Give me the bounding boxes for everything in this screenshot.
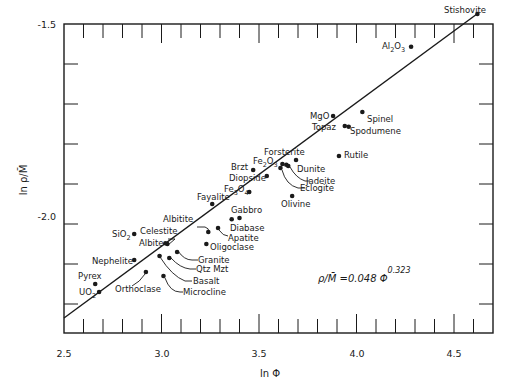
x-tick-label: 3.0 bbox=[154, 348, 169, 359]
label-olivine: Olivine bbox=[281, 199, 310, 209]
label-mgo: MgO bbox=[310, 111, 330, 121]
x-tick-label: 3.5 bbox=[251, 348, 266, 359]
data-point bbox=[206, 230, 211, 235]
label-sio2: SiO2 bbox=[112, 229, 131, 242]
data-point bbox=[237, 216, 242, 221]
data-point bbox=[278, 166, 283, 171]
label-orthoclase: Orthoclase bbox=[115, 284, 161, 294]
label-qtz-mzt: Qtz Mzt bbox=[196, 264, 229, 274]
label-eclogite: Eclogite bbox=[300, 183, 334, 193]
label-spodumene: Spodumene bbox=[350, 126, 401, 136]
label-dunite: Dunite bbox=[297, 164, 325, 174]
label-albitite: Albitite bbox=[163, 214, 193, 224]
y-tick-label: -1.5 bbox=[37, 19, 56, 30]
data-point bbox=[216, 226, 221, 231]
label-gabbro: Gabbro bbox=[231, 205, 262, 215]
tick-labels: 2.5 3.0 3.5 4.0 4.5 -1.5 -2.0 bbox=[37, 19, 461, 359]
y-axis-label: ln ρ/M̄ bbox=[17, 165, 29, 196]
data-point bbox=[409, 45, 414, 50]
data-point bbox=[229, 217, 234, 222]
label-al2o3: Al2O3 bbox=[382, 41, 405, 54]
data-point bbox=[251, 168, 256, 173]
label-brzt: Brzt bbox=[231, 162, 249, 172]
equation-annotation: ρ/M̄ =0.048 Φ0.323 bbox=[318, 266, 411, 284]
data-point bbox=[331, 114, 336, 119]
data-point bbox=[132, 232, 137, 237]
label-diopside: Diopside bbox=[229, 173, 266, 183]
data-point bbox=[294, 158, 299, 163]
label-albite: Albite bbox=[139, 238, 164, 248]
data-point bbox=[343, 124, 348, 129]
data-point bbox=[204, 242, 209, 247]
label-nephelite: Nephelite bbox=[92, 256, 133, 266]
y-tick-label: -2.0 bbox=[37, 211, 56, 222]
data-point bbox=[167, 256, 172, 261]
data-point bbox=[144, 270, 149, 275]
data-point bbox=[210, 202, 215, 207]
label-basalt: Basalt bbox=[193, 276, 220, 286]
data-point bbox=[360, 110, 365, 115]
x-tick-label: 4.5 bbox=[446, 348, 461, 359]
label-celestite: Celestite bbox=[140, 226, 177, 236]
data-point bbox=[280, 162, 285, 167]
data-point bbox=[157, 254, 162, 259]
label-pyrex: Pyrex bbox=[78, 271, 102, 281]
data-point bbox=[161, 274, 166, 279]
fit-line bbox=[64, 14, 477, 318]
x-tick-label: 2.5 bbox=[56, 348, 71, 359]
point-labels: Stishovite Al2O3 MgO Spinel Topaz Spodum… bbox=[78, 5, 486, 300]
label-uo2: UO2 bbox=[79, 287, 96, 300]
label-spinel: Spinel bbox=[367, 114, 393, 124]
label-stishovite: Stishovite bbox=[444, 5, 486, 15]
label-fe2o3: Fe2O3 bbox=[253, 156, 278, 169]
data-point bbox=[337, 154, 342, 159]
data-point bbox=[163, 241, 168, 246]
data-point bbox=[93, 282, 98, 287]
data-point bbox=[290, 194, 295, 199]
label-diabase: Diabase bbox=[230, 223, 264, 233]
label-rutile: Rutile bbox=[344, 150, 368, 160]
label-topaz: Topaz bbox=[311, 122, 337, 132]
label-microcline: Microcline bbox=[183, 287, 226, 297]
x-axis-label: ln Φ bbox=[260, 368, 280, 379]
label-fayalite: Fayalite bbox=[197, 192, 230, 202]
scatter-chart: 2.5 3.0 3.5 4.0 4.5 -1.5 -2.0 ln Φ ln ρ/… bbox=[0, 0, 513, 392]
data-point bbox=[97, 290, 102, 295]
label-oligoclase: Oligoclase bbox=[210, 242, 254, 252]
x-tick-label: 4.0 bbox=[349, 348, 364, 359]
